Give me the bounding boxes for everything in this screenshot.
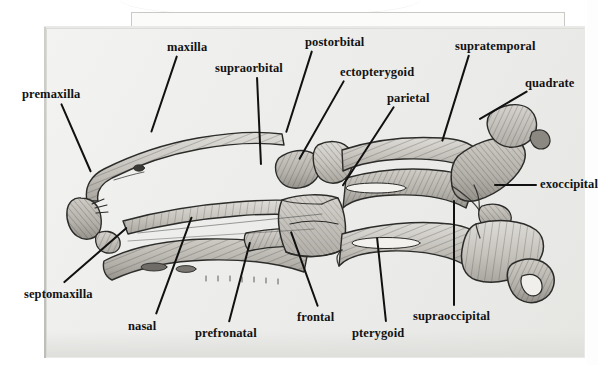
label-quadrate: quadrate <box>525 77 574 90</box>
label-premaxilla: premaxilla <box>22 88 80 101</box>
label-exoccipital: exoccipital <box>540 178 598 191</box>
label-ectopterygoid: ectopterygoid <box>340 66 414 79</box>
label-postorbital: postorbital <box>305 36 364 49</box>
label-frontal: frontal <box>297 311 334 324</box>
leader-line-exoccipital <box>494 184 537 186</box>
bone-maxilla-left <box>86 132 284 201</box>
label-supraorbital: supraorbital <box>215 62 283 75</box>
label-septomaxilla: septomaxilla <box>24 288 93 301</box>
label-pterygoid: pterygoid <box>352 327 404 340</box>
bone-pterygoid <box>339 222 480 268</box>
label-maxilla: maxilla <box>167 41 207 54</box>
label-nasal: nasal <box>128 320 156 333</box>
label-supratemporal: supratemporal <box>455 40 535 53</box>
label-supraoccipital: supraoccipital <box>413 310 490 323</box>
bone-quadrate <box>487 105 550 149</box>
label-parietal: parietal <box>387 92 429 105</box>
leader-line-supraoccipital <box>453 200 455 306</box>
label-prefronatal: prefronatal <box>195 327 257 340</box>
skull-illustration <box>46 28 583 356</box>
bone-quadrate-ramus <box>507 259 554 303</box>
